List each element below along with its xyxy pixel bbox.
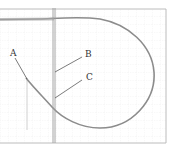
label-a: A bbox=[9, 48, 17, 58]
label-c: C bbox=[86, 72, 93, 82]
curve-top-band bbox=[0, 19, 54, 20]
label-b: B bbox=[85, 49, 92, 59]
loop-curve-diagram: A B C bbox=[0, 0, 176, 152]
